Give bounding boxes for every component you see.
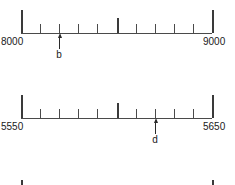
- end-value-label: 5650: [203, 121, 225, 132]
- tick-minor: [97, 109, 98, 118]
- tick-minor: [78, 109, 79, 118]
- tick-midpoint: [117, 103, 119, 118]
- pointer-arrow-d: [154, 118, 158, 134]
- pointer-label: d: [145, 134, 165, 145]
- tick-minor: [193, 24, 194, 33]
- tick-minor: [78, 24, 79, 33]
- tick-start-end: [21, 10, 23, 33]
- tick-minor: [174, 24, 175, 33]
- start-value-label: 8000: [1, 36, 23, 47]
- tick-finish-end: [212, 95, 214, 118]
- pointer-arrow-b: [58, 33, 62, 49]
- tick-minor: [155, 24, 156, 33]
- tick-minor: [136, 24, 137, 33]
- tick-finish-end: [212, 180, 214, 185]
- tick-minor: [59, 24, 60, 33]
- number-line-axis: [21, 118, 212, 119]
- tick-start-end: [21, 180, 23, 185]
- tick-minor: [174, 109, 175, 118]
- pointer-label: b: [49, 49, 69, 60]
- tick-finish-end: [212, 10, 214, 33]
- arrow-shaft: [155, 122, 156, 134]
- tick-minor: [155, 109, 156, 118]
- start-value-label: 5550: [1, 121, 23, 132]
- arrow-shaft: [59, 37, 60, 49]
- tick-minor: [97, 24, 98, 33]
- number-line-axis: [21, 33, 212, 34]
- tick-minor: [40, 109, 41, 118]
- tick-start-end: [21, 95, 23, 118]
- tick-minor: [136, 109, 137, 118]
- tick-minor: [40, 24, 41, 33]
- end-value-label: 9000: [203, 36, 225, 47]
- tick-minor: [193, 109, 194, 118]
- tick-minor: [59, 109, 60, 118]
- tick-midpoint: [117, 18, 119, 33]
